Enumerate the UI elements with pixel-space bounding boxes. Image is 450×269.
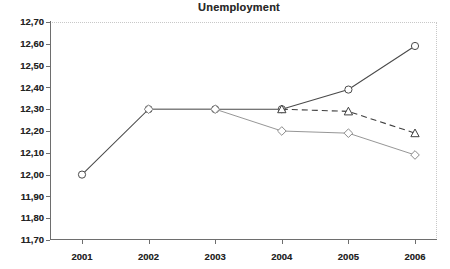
y-axis-tick-mark	[46, 240, 50, 241]
unemployment-line-chart: Unemployment 12,7012,6012,5012,4012,3012…	[0, 0, 450, 269]
chart-title: Unemployment	[0, 1, 450, 13]
x-axis-tick-label: 2005	[338, 251, 359, 262]
series-circle	[78, 42, 418, 178]
x-axis-tick-label: 2004	[271, 251, 292, 262]
series-triangle-marker	[411, 129, 419, 137]
series-layer	[50, 22, 437, 240]
x-axis-tick-mark	[282, 240, 283, 244]
x-axis-tick-label: 2002	[138, 251, 159, 262]
x-axis-tick-mark	[348, 240, 349, 244]
series-circle-marker	[78, 171, 85, 178]
plot-area: 12,7012,6012,5012,4012,3012,2012,1012,00…	[50, 22, 437, 240]
series-circle-marker	[411, 42, 418, 49]
series-circle-marker	[345, 86, 352, 93]
series-diamond-marker	[277, 127, 286, 136]
x-axis-tick-label: 2006	[404, 251, 425, 262]
series-diamond-marker	[344, 129, 353, 138]
x-axis-tick-mark	[215, 240, 216, 244]
x-axis-tick-mark	[149, 240, 150, 244]
x-axis-tick-label: 2001	[71, 251, 92, 262]
series-circle-line	[82, 46, 415, 175]
x-axis-tick-mark	[415, 240, 416, 244]
series-diamond-marker	[211, 105, 220, 114]
x-axis-tick-label: 2003	[205, 251, 226, 262]
y-axis-line	[50, 21, 51, 240]
series-diamond-marker	[411, 151, 420, 160]
x-axis-tick-mark	[82, 240, 83, 244]
x-axis-line	[50, 239, 437, 240]
